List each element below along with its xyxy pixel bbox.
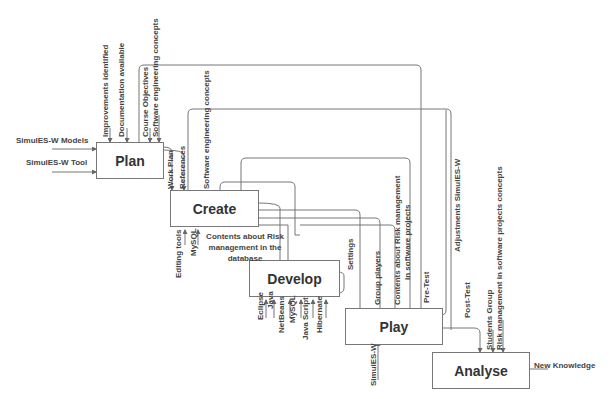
create-box[interactable]: Create (170, 190, 259, 227)
control-objectives: Course Objectives (141, 67, 150, 137)
plan-box[interactable]: Plan (96, 142, 164, 179)
control-pre-test: Pre-Test (422, 272, 431, 303)
analyse-box[interactable]: Analyse (432, 352, 530, 389)
mechanism-editing-tools: Editing tools (174, 230, 183, 278)
create-label: Create (193, 201, 237, 217)
mechanism-java: Java (266, 291, 275, 309)
control-documentation: Documentation available (117, 43, 126, 137)
label-post-test: Post-Test (463, 282, 472, 318)
mechanism-netbeans: NetBeans (277, 296, 286, 333)
mechanism-simules-w: SimulES-W (369, 343, 378, 386)
label-adjustments: Adjustments SimulES-W (453, 159, 462, 252)
control-sw-concepts: Software engineering concepts (151, 18, 160, 137)
control-students-group: Students Group (485, 290, 494, 350)
output-contents-db: Contents about Risk management in the da… (202, 231, 288, 264)
play-box[interactable]: Play (345, 308, 443, 345)
input-tool: SimulES-W Tool (26, 158, 87, 167)
develop-label: Develop (267, 271, 321, 287)
control-risk-concepts: Risk management in software projects con… (495, 166, 504, 350)
control-contents-risk-2: in software projects (403, 204, 412, 280)
control-contents-risk: Contents about Risk management (393, 176, 402, 305)
control-references: References (178, 146, 187, 189)
input-models: SimulES-W Models (16, 136, 88, 145)
mechanism-mysql: MySQL (189, 228, 198, 256)
mechanism-javascript: Java Script (301, 297, 310, 340)
plan-label: Plan (115, 153, 145, 169)
play-label: Play (380, 319, 409, 335)
control-create-sw-concepts: Software engineering concepts (202, 70, 211, 189)
analyse-label: Analyse (454, 363, 508, 379)
mechanism-mysql-dev: MySQL (288, 295, 297, 323)
mechanism-eclipse: Eclipse (256, 292, 265, 320)
mechanism-hibernate: Hibernate (315, 296, 324, 333)
control-improvements: Improvements identified (101, 45, 110, 137)
output-new-knowledge: New Knowledge (534, 361, 595, 370)
control-group-players: Group players (373, 251, 382, 305)
label-settings: Settings (346, 238, 355, 270)
control-work-plan: Work Plan (166, 150, 175, 189)
